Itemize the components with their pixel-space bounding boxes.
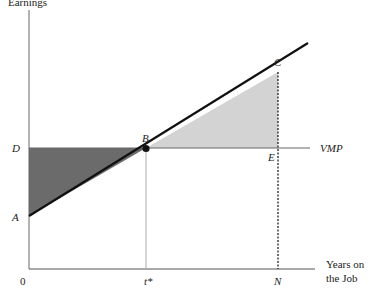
x-axis-label-line2: the Job <box>326 273 357 284</box>
vmp-label: VMP <box>320 143 343 154</box>
point-b-marker <box>142 145 149 152</box>
t-star-label: t* <box>144 276 153 287</box>
point-c-label: C <box>274 57 281 68</box>
point-a-label: A <box>12 212 19 223</box>
point-b-label: B <box>142 133 149 144</box>
y-axis-label: Earnings <box>8 0 47 8</box>
origin-label: 0 <box>20 276 26 287</box>
point-e-label: E <box>268 152 275 163</box>
n-label: N <box>274 276 281 287</box>
x-axis-label-line1: Years on <box>326 259 364 270</box>
light-shaded-area <box>146 72 278 148</box>
point-d-label: D <box>12 143 20 154</box>
